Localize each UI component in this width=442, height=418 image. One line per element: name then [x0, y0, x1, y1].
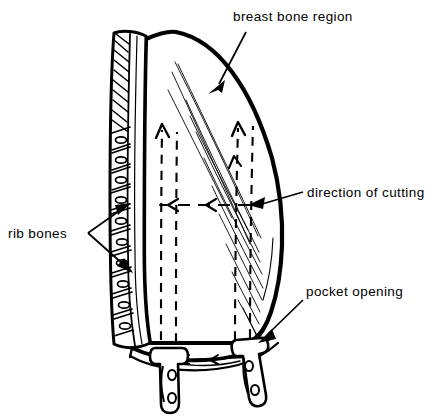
label-direction-of-cutting: direction of cutting: [307, 185, 425, 200]
poultry-breast-cut-diagram: breast bone region direction of cutting …: [0, 0, 442, 418]
label-breast-bone-region: breast bone region: [233, 9, 353, 24]
label-pocket-opening: pocket opening: [306, 284, 403, 299]
label-rib-bones: rib bones: [8, 226, 67, 241]
rib-bones-strip: [110, 31, 150, 347]
